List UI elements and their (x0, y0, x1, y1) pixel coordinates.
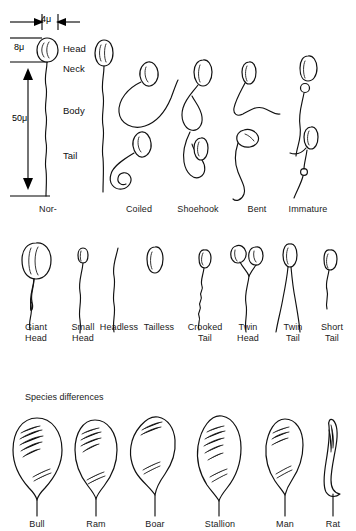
species-head-rat (324, 419, 340, 516)
species-specimens (0, 0, 356, 531)
label-man: Man (261, 519, 309, 530)
species-head-boar (130, 417, 175, 516)
species-head-stallion (197, 416, 241, 516)
label-ram: Ram (71, 519, 121, 530)
species-head-ram (75, 420, 117, 516)
label-stallion: Stallion (193, 519, 247, 530)
figure-canvas: 4μ 8μ 50μ Head Neck Body Tail (0, 0, 356, 531)
species-head-man (266, 419, 303, 516)
label-boar: Boar (130, 519, 180, 530)
label-bull: Bull (12, 519, 62, 530)
label-rat: Rat (310, 519, 356, 530)
species-head-bull (13, 418, 62, 516)
